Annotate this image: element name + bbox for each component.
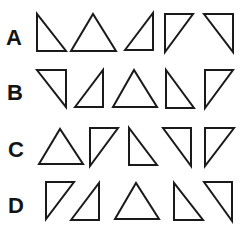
row-d-triangle-1: [46, 182, 74, 219]
row-d-triangle-3: [115, 183, 159, 219]
row-label-c: C: [8, 137, 24, 162]
row-c-triangle-1: [39, 129, 83, 164]
row-a-triangle-2: [71, 14, 116, 51]
row-c: C: [8, 128, 234, 166]
row-b-triangle-3: [113, 70, 157, 107]
row-c-triangle-5: [205, 128, 234, 166]
row-a-triangle-5: [204, 14, 233, 52]
row-d-triangle-2: [71, 183, 99, 220]
row-a-triangle-1: [37, 14, 66, 51]
row-d-triangle-4: [174, 183, 203, 220]
row-b-triangle-2: [75, 70, 103, 107]
row-a-triangle-4: [165, 14, 193, 52]
row-a: A: [6, 13, 233, 52]
row-label-a: A: [6, 25, 22, 50]
row-d-triangle-5: [204, 182, 232, 221]
row-c-triangle-3: [129, 128, 157, 165]
row-b-triangle-4: [166, 70, 194, 108]
triangle-puzzle: A B C D: [0, 0, 246, 229]
row-d: D: [8, 182, 232, 221]
row-b-triangle-1: [37, 70, 66, 107]
row-label-d: D: [8, 193, 24, 218]
row-b-triangle-5: [205, 70, 233, 108]
row-b: B: [7, 70, 233, 108]
row-label-b: B: [7, 80, 23, 105]
row-a-triangle-3: [125, 13, 153, 50]
row-c-triangle-4: [163, 128, 191, 166]
row-c-triangle-2: [90, 128, 118, 166]
